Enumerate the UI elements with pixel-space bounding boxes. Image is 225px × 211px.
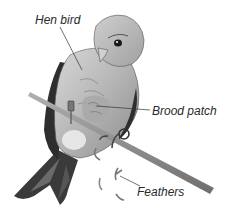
eye-icon xyxy=(114,40,122,47)
bird-head xyxy=(94,15,144,66)
label-brood-patch: Brood patch xyxy=(152,105,217,117)
label-hen-bird: Hen bird xyxy=(35,14,80,26)
bird-tail xyxy=(14,150,78,205)
label-feathers: Feathers xyxy=(137,186,184,198)
diagram-canvas: Hen bird Brood patch Feathers xyxy=(0,0,225,211)
feathers xyxy=(95,148,124,200)
